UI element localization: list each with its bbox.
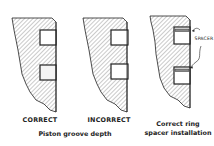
ring-groove-top xyxy=(40,30,56,45)
label-incorrect: INCORRECT xyxy=(86,116,132,124)
caption-spacer-line1: Correct ring xyxy=(148,120,208,128)
spacer-bottom xyxy=(175,69,189,72)
ring-groove-bottom xyxy=(40,65,56,80)
spacer-leader-bottom xyxy=(190,46,201,68)
caption-spacer-line2: spacer installation xyxy=(142,129,214,137)
piston-section-incorrect xyxy=(83,18,128,112)
piston-section-spacer xyxy=(150,16,201,108)
caption-groove-depth: Piston groove depth xyxy=(30,130,120,138)
piston-section-correct xyxy=(12,18,56,112)
callout-spacer: SPACER xyxy=(194,36,214,41)
label-correct: CORRECT xyxy=(20,116,60,124)
spacer-top xyxy=(175,29,189,32)
ring-groove-top xyxy=(111,30,128,45)
ring-groove-bottom xyxy=(111,64,128,79)
